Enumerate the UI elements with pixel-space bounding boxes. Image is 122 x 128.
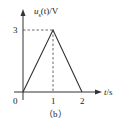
origin-label: 0 — [13, 96, 18, 106]
y-label-rest: (t)/V — [41, 6, 59, 16]
x-axis-arrow-icon — [95, 90, 102, 95]
y-tick-3: 3 — [13, 25, 18, 35]
x-axis-label: t/s — [104, 87, 113, 97]
x-tick-2: 2 — [80, 96, 85, 106]
x-tick-1: 1 — [51, 96, 56, 106]
y-axis-arrow-icon — [21, 9, 26, 16]
triangle-waveform — [23, 30, 82, 92]
y-axis-label: us(t)/V — [34, 6, 58, 20]
x-label-unit: /s — [107, 87, 113, 97]
figure-caption: （b） — [44, 109, 67, 119]
